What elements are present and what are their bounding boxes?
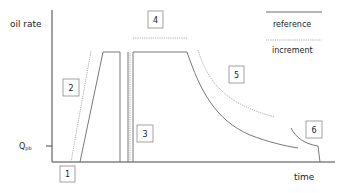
q-label: Qpb: [19, 142, 32, 152]
phase-box-2: 2: [63, 79, 79, 96]
increment-ramp: [71, 51, 91, 162]
legend-increment-label: increment: [272, 46, 313, 55]
oil-rate-diagram: oil rate time Qpb reference increment 1 …: [0, 0, 343, 193]
reference-plateau-decline: [133, 52, 298, 162]
phase-box-4: 4: [148, 11, 163, 28]
svg-text:6: 6: [311, 126, 316, 135]
phase-box-5: 5: [229, 66, 244, 83]
phase-box-6: 6: [306, 121, 322, 138]
y-axis-label: oil rate: [10, 19, 42, 29]
reference-ramp-segment: [80, 52, 120, 162]
legend-reference-label: reference: [273, 20, 311, 29]
svg-text:4: 4: [153, 16, 158, 25]
phase-box-1: 1: [60, 166, 75, 182]
increment-decline: [198, 50, 275, 117]
phase-box-3: 3: [137, 125, 153, 142]
x-axis-label: time: [294, 172, 315, 182]
svg-text:2: 2: [68, 84, 73, 93]
svg-text:5: 5: [234, 71, 239, 80]
svg-text:1: 1: [65, 170, 70, 179]
svg-text:3: 3: [142, 130, 147, 139]
